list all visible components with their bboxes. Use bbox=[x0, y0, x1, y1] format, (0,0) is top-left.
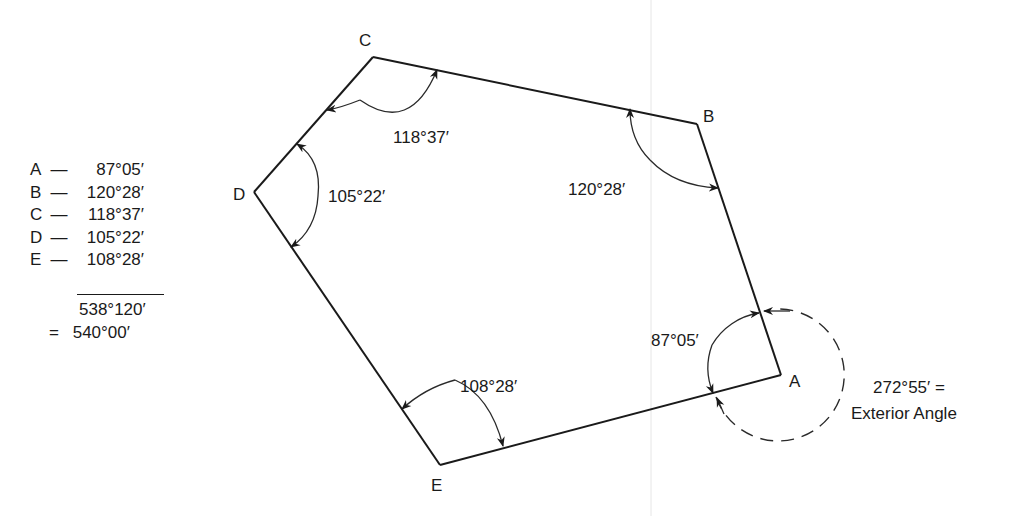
angle-label-a: 87°05′ bbox=[651, 331, 699, 350]
tally-value: 118°37′ bbox=[74, 204, 144, 227]
vertex-label-d: D bbox=[233, 185, 245, 204]
angle-label-e: 108°28′ bbox=[460, 377, 517, 396]
edge-dc bbox=[254, 57, 373, 192]
vertex-label-c: C bbox=[359, 31, 371, 50]
angle-label-d: 105°22′ bbox=[328, 187, 385, 206]
tally-value: 108°28′ bbox=[74, 249, 144, 272]
tally-key: D bbox=[30, 227, 44, 250]
exterior-arrow-bottom bbox=[717, 398, 724, 414]
angle-arc-e-left bbox=[402, 380, 455, 409]
tally-row-a: A — 87°05′ bbox=[30, 159, 144, 182]
angle-arc-d-top bbox=[297, 144, 319, 196]
tally-subtotal: 538°120′ bbox=[79, 300, 146, 320]
traverse-polygon bbox=[254, 57, 781, 465]
tally-row-d: D — 105°22′ bbox=[30, 227, 144, 250]
tally-sep: — bbox=[44, 249, 74, 272]
tally-row-e: E — 108°28′ bbox=[30, 249, 144, 272]
tally-key: E bbox=[30, 249, 44, 272]
tally-row-c: C — 118°37′ bbox=[30, 204, 144, 227]
edge-ba bbox=[697, 124, 781, 375]
tally-key: B bbox=[30, 182, 44, 205]
angle-label-b: 120°28′ bbox=[568, 180, 625, 199]
angle-arc-d-bottom bbox=[291, 196, 318, 247]
tally-row-b: B — 120°28′ bbox=[30, 182, 144, 205]
angle-sum-table: A — 87°05′ B — 120°28′ C — 118°37′ D — 1… bbox=[30, 159, 144, 272]
tally-value: 105°22′ bbox=[74, 227, 144, 250]
angle-labels: 118°37′ 120°28′ 105°22′ 108°28′ 87°05′ 2… bbox=[328, 128, 957, 423]
vertex-label-b: B bbox=[703, 107, 714, 126]
tally-value: 87°05′ bbox=[74, 159, 144, 182]
sum-rule-line bbox=[77, 294, 164, 295]
angle-arc-a-bottom bbox=[708, 345, 713, 393]
traverse-diagram: C B D A E 118°37′ 120°28′ 105°22′ 108°28… bbox=[0, 0, 1018, 516]
exterior-angle-caption: Exterior Angle bbox=[851, 404, 957, 423]
tally-sep: — bbox=[44, 227, 74, 250]
vertex-label-e: E bbox=[431, 476, 442, 495]
vertex-labels: C B D A E bbox=[233, 31, 801, 495]
tally-sep: — bbox=[44, 204, 74, 227]
angle-arcs bbox=[291, 70, 844, 446]
tally-value: 120°28′ bbox=[74, 182, 144, 205]
tally-key: A bbox=[30, 159, 44, 182]
tally-total: = 540°00′ bbox=[49, 323, 130, 343]
angle-label-c: 118°37′ bbox=[393, 128, 449, 147]
total-equals: = bbox=[49, 323, 59, 342]
angle-arc-c bbox=[360, 70, 437, 112]
angle-arc-b-top bbox=[630, 109, 650, 160]
exterior-angle-value: 272°55′ = bbox=[873, 378, 945, 397]
angle-arc-b-right bbox=[650, 160, 718, 188]
total-value: 540°00′ bbox=[73, 323, 130, 342]
tally-sep: — bbox=[44, 182, 74, 205]
angle-arc-a-top bbox=[712, 313, 759, 345]
vertex-label-a: A bbox=[789, 372, 801, 391]
edge-ed bbox=[254, 192, 440, 465]
tally-sep: — bbox=[44, 159, 74, 182]
edge-cb bbox=[373, 57, 697, 124]
tally-key: C bbox=[30, 204, 44, 227]
